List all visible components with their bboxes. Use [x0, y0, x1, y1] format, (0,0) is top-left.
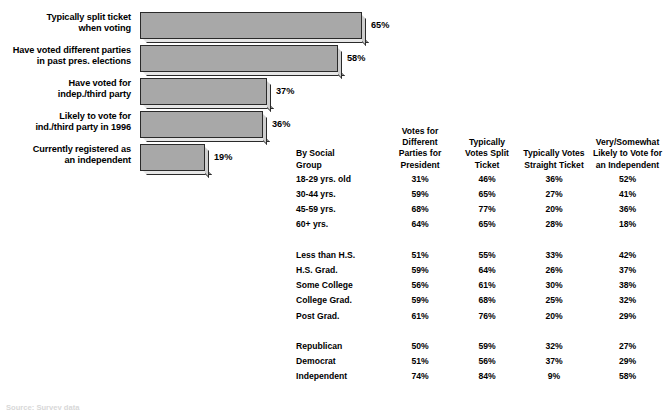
bar-value-label: 37%: [276, 86, 294, 96]
row-value-cell: 61%: [456, 278, 518, 293]
bar-value-label: 58%: [347, 53, 365, 63]
row-value-cell: 51%: [384, 354, 456, 369]
row-value-cell: 55%: [456, 248, 518, 263]
bar-front-face: [140, 12, 362, 39]
bar-side-face: [263, 114, 267, 145]
row-value-cell: 59%: [384, 187, 456, 202]
bar-shape: [140, 78, 267, 108]
spacer-cell: [296, 233, 665, 248]
bar-shape: [140, 111, 263, 141]
table-row: Less than H.S.51%55%33%42%: [296, 248, 665, 263]
bar-bottom-face: [143, 72, 345, 76]
column-header-line: Straight Ticket: [518, 160, 590, 171]
table-group-spacer: [296, 324, 665, 339]
row-group-label: 45-59 yrs.: [296, 202, 384, 217]
row-value-cell: 29%: [590, 309, 665, 324]
row-group-label: Republican: [296, 339, 384, 354]
bar-shape: [140, 144, 205, 174]
column-header-line: Typically: [456, 137, 518, 148]
row-value-cell: 58%: [590, 369, 665, 384]
bar-label-line-2: an independent: [0, 155, 131, 166]
bar-label-line-1: Currently registered as: [33, 144, 131, 154]
bar-category-label: Have voted different partiesin past pres…: [0, 45, 131, 68]
row-value-cell: 41%: [590, 187, 665, 202]
row-group-label: Post Grad.: [296, 309, 384, 324]
row-group-label: Some College: [296, 278, 384, 293]
column-header-line: Ticket: [456, 160, 518, 171]
row-value-cell: 28%: [518, 217, 590, 232]
row-value-cell: 33%: [518, 248, 590, 263]
row-value-cell: 59%: [384, 293, 456, 308]
bar-label-line-2: ind./third party in 1996: [0, 122, 131, 133]
table-row: Some College56%61%30%38%: [296, 278, 665, 293]
column-header-line: Typically Votes: [518, 148, 590, 159]
table-row: H.S. Grad.59%64%26%37%: [296, 263, 665, 278]
row-value-cell: 26%: [518, 263, 590, 278]
social-group-data-table: By SocialGroup Votes forDifferentParties…: [296, 126, 665, 385]
row-value-cell: 36%: [518, 172, 590, 187]
row-group-label: Democrat: [296, 354, 384, 369]
row-value-cell: 65%: [456, 187, 518, 202]
column-header-line: Parties for: [384, 148, 456, 159]
row-group-label: 18-29 yrs. old: [296, 172, 384, 187]
bar-bottom-face: [143, 105, 274, 109]
bar-label-line-2: indep./third party: [0, 89, 131, 100]
table-row: Democrat51%56%37%29%: [296, 354, 665, 369]
bar-front-face: [140, 144, 205, 171]
row-value-cell: 84%: [456, 369, 518, 384]
row-value-cell: 20%: [518, 309, 590, 324]
row-value-cell: 32%: [518, 339, 590, 354]
column-header-line: Group: [296, 160, 384, 171]
bar-row: Have voted different partiesin past pres…: [0, 45, 400, 78]
row-value-cell: 50%: [384, 339, 456, 354]
row-value-cell: 9%: [518, 369, 590, 384]
row-value-cell: 68%: [456, 293, 518, 308]
row-value-cell: 56%: [456, 354, 518, 369]
bar-label-line-1: Have voted different parties: [13, 45, 131, 55]
column-header-split-ticket: TypicallyVotes SplitTicket: [456, 126, 518, 172]
row-value-cell: 25%: [518, 293, 590, 308]
row-group-label: 30-44 yrs.: [296, 187, 384, 202]
row-group-label: 60+ yrs.: [296, 217, 384, 232]
spacer-cell: [296, 324, 665, 339]
row-value-cell: 76%: [456, 309, 518, 324]
table-body: 18-29 yrs. old31%46%36%52%30-44 yrs.59%6…: [296, 172, 665, 385]
row-group-label: College Grad.: [296, 293, 384, 308]
row-value-cell: 77%: [456, 202, 518, 217]
bar-label-line-1: Typically split ticket: [47, 12, 131, 22]
bar-category-label: Likely to vote forind./third party in 19…: [0, 111, 131, 134]
table-row: College Grad.59%68%25%32%: [296, 293, 665, 308]
by-social-group-table: By SocialGroup Votes forDifferentParties…: [296, 126, 665, 385]
bar-value-label: 36%: [272, 119, 290, 129]
row-value-cell: 65%: [456, 217, 518, 232]
column-header-line: Likely to Vote for: [590, 148, 665, 159]
row-value-cell: 37%: [518, 354, 590, 369]
row-value-cell: 56%: [384, 278, 456, 293]
table-row: 60+ yrs.64%65%28%18%: [296, 217, 665, 232]
table-row: Independent74%84%9%58%: [296, 369, 665, 384]
row-value-cell: 18%: [590, 217, 665, 232]
row-value-cell: 46%: [456, 172, 518, 187]
table-row: Republican50%59%32%27%: [296, 339, 665, 354]
bar-front-face: [140, 78, 267, 105]
column-header-line: Votes Split: [456, 148, 518, 159]
bar-side-face: [205, 147, 209, 178]
row-value-cell: 38%: [590, 278, 665, 293]
row-value-cell: 20%: [518, 202, 590, 217]
column-header-likely-independent: Very/SomewhatLikely to Vote foran Indepe…: [590, 126, 665, 172]
column-header-line: Very/Somewhat: [590, 137, 665, 148]
row-value-cell: 52%: [590, 172, 665, 187]
row-value-cell: 59%: [456, 339, 518, 354]
row-value-cell: 27%: [590, 339, 665, 354]
table-row: 18-29 yrs. old31%46%36%52%: [296, 172, 665, 187]
bar-label-line-2: in past pres. elections: [0, 56, 131, 67]
bar-bottom-face: [143, 39, 369, 43]
column-header-line: Votes for: [384, 126, 456, 137]
row-value-cell: 51%: [384, 248, 456, 263]
row-value-cell: 27%: [518, 187, 590, 202]
bar-side-face: [362, 15, 366, 46]
bar-value-label: 65%: [371, 20, 389, 30]
bar-shape: [140, 12, 362, 42]
table-header: By SocialGroup Votes forDifferentParties…: [296, 126, 665, 172]
table-row: 30-44 yrs.59%65%27%41%: [296, 187, 665, 202]
